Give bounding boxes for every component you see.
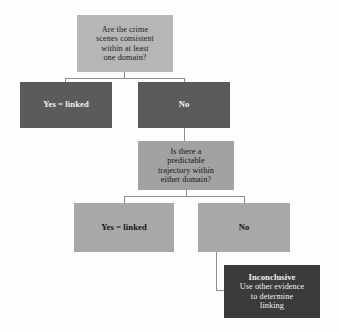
- node-answer-1-no-label: No: [179, 100, 190, 110]
- node-outcome-inconclusive: Inconclusive Use other evidence to deter…: [224, 265, 320, 318]
- node-question-1-line-4: one domain?: [103, 53, 146, 62]
- node-outcome-line-3: linking: [260, 301, 284, 311]
- node-question-1-line-3: within at least: [101, 44, 148, 53]
- node-answer-2-yes-label: Yes = linked: [101, 223, 147, 233]
- node-outcome-line-2: to determine: [251, 292, 293, 302]
- node-question-2: Is there a predictable trajectory within…: [138, 141, 234, 190]
- connector-no2-elbow: [216, 290, 224, 291]
- connector-no2-stem: [216, 252, 217, 290]
- node-outcome-line-1: Use other evidence: [240, 282, 305, 292]
- connector-q1-bar: [65, 78, 185, 79]
- node-answer-1-yes-label: Yes = linked: [43, 100, 89, 110]
- connector-no1-to-q2: [184, 128, 185, 141]
- node-question-1-line-1: Are the crime: [102, 25, 148, 34]
- node-answer-1-no: No: [138, 82, 230, 128]
- node-question-2-line-4: either domain?: [161, 175, 211, 184]
- flowchart-canvas: Are the crime scenes consistent within a…: [0, 0, 339, 332]
- node-question-2-line-3: trajectory within: [158, 166, 214, 175]
- node-answer-2-no: No: [198, 203, 290, 252]
- node-question-1-line-2: scenes consistent: [96, 34, 154, 43]
- node-question-1: Are the crime scenes consistent within a…: [77, 15, 173, 72]
- connector-q2-to-yes: [124, 196, 125, 203]
- node-question-2-line-1: Is there a: [170, 147, 201, 156]
- node-answer-2-yes: Yes = linked: [74, 203, 174, 252]
- node-answer-1-yes: Yes = linked: [20, 82, 112, 128]
- connector-q2-bar: [124, 196, 244, 197]
- node-outcome-headline: Inconclusive: [248, 272, 295, 282]
- connector-q2-to-no: [244, 196, 245, 203]
- node-answer-2-no-label: No: [239, 223, 250, 233]
- node-question-2-line-2: predictable: [167, 156, 204, 165]
